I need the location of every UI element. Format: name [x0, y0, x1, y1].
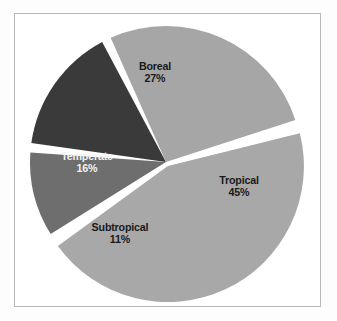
figure-canvas: Tropical 45% Boreal 27% Temperate 16% Su… [0, 0, 337, 321]
pie-slices [30, 26, 304, 302]
pie-chart [0, 0, 337, 321]
